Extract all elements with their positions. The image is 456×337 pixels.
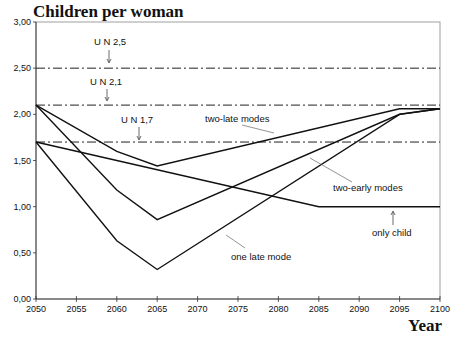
x-tick-label: 2050 <box>26 304 46 314</box>
y-tick-label: 2,50 <box>13 63 31 73</box>
annotations: U N 2,5 U N 2,1 U N 1,7 two-late modes t… <box>90 36 412 262</box>
x-tick-label: 2070 <box>188 304 208 314</box>
y-tick-label: 1,00 <box>13 202 31 212</box>
x-tick-label: 2085 <box>309 304 329 314</box>
y-tick-label: 2,00 <box>13 109 31 119</box>
label-un21: U N 2,1 <box>90 76 122 87</box>
y-tick-label: 0,00 <box>13 294 31 304</box>
label-one-late-mode: one late mode <box>231 251 291 262</box>
label-two-late-modes: two-late modes <box>205 113 270 124</box>
series-only-child <box>36 142 440 207</box>
y-tick-label: 1,50 <box>13 156 31 166</box>
x-tick-label: 2090 <box>349 304 369 314</box>
y-tick-label: 0,50 <box>13 248 31 258</box>
x-tick-label: 2075 <box>228 304 248 314</box>
label-two-early-modes: two-early modes <box>333 182 403 193</box>
label-un17: U N 1,7 <box>121 114 153 125</box>
x-tick-label: 2100 <box>430 304 450 314</box>
label-un25: U N 2,5 <box>94 36 126 47</box>
x-tick-label: 2060 <box>107 304 127 314</box>
x-tick-label: 2095 <box>390 304 410 314</box>
x-axis-label: Year <box>408 316 442 335</box>
x-tick-label: 2080 <box>268 304 288 314</box>
y-tick-label: 3,00 <box>13 17 31 27</box>
chart-title: Children per woman <box>33 2 184 21</box>
label-only-child: only child <box>372 227 412 238</box>
x-tick-label: 2065 <box>147 304 167 314</box>
x-tick-label: 2055 <box>66 304 86 314</box>
y-axis: 0,000,501,001,502,002,503,00 <box>13 17 36 304</box>
fertility-chart: Children per woman Year 0,000,501,001,50… <box>0 0 456 337</box>
